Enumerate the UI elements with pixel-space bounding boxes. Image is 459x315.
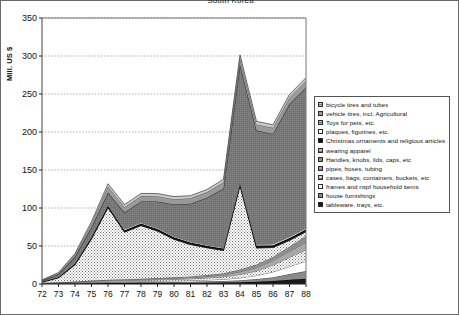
x-tick-label: 84 [235,289,245,299]
x-tick-label: 76 [103,289,113,299]
legend-item-label: plaques, figurines, etc. [326,127,389,136]
legend-item[interactable]: Toys for pets, etc. [318,118,446,127]
x-axis-ticks: 7273747576777879808182838485868788 [37,284,311,299]
legend-item[interactable]: vehicle tires, incl. Agricultural [318,109,446,118]
legend-swatch-icon [318,138,323,143]
legend-item-label: frames and nspf household items [326,182,419,191]
x-tick-label: 79 [153,289,163,299]
x-tick-label: 86 [268,289,278,299]
x-tick-label: 85 [252,289,262,299]
x-tick-label: 82 [202,289,212,299]
y-tick-label: 0 [32,279,37,289]
y-tick-label: 200 [22,127,37,137]
legend-swatch-icon [318,120,323,125]
legend-swatch-icon [318,202,323,207]
legend-item-label: vehicle tires, incl. Agricultural [326,109,407,118]
legend-swatch-icon [318,175,323,180]
legend-item[interactable]: Christmas ornaments and religious articl… [318,136,446,145]
x-tick-label: 73 [54,289,64,299]
x-tick-label: 80 [169,289,179,299]
chart-frame: South Korea MIll. US $ [0,0,459,315]
legend-item-label: Handles, knobs, lids, caps, etc [326,155,411,164]
chart-legend[interactable]: bicycle tires and tubesvehicle tires, in… [314,96,450,213]
y-tick-label: 300 [22,51,37,61]
legend-item-label: Toys for pets, etc. [326,118,375,127]
x-tick-label: 81 [186,289,196,299]
legend-swatch-icon [318,148,323,153]
y-tick-label: 350 [22,13,37,23]
y-tick-label: 250 [22,89,37,99]
legend-item-label: tableware, trays, etc. [326,200,384,209]
stacked-areas [42,55,306,284]
y-tick-label: 100 [22,203,37,213]
legend-item-label: house furnishings [326,191,375,200]
y-axis-ticks: 050100150200250300350 [22,13,42,289]
legend-item[interactable]: plaques, figurines, etc. [318,127,446,136]
legend-swatch-icon [318,166,323,171]
legend-item-label: bicycle tires and tubes [326,100,388,109]
legend-item[interactable]: cases, bags, containers, buckets, etc [318,173,446,182]
legend-swatch-icon [318,184,323,189]
legend-swatch-icon [318,102,323,107]
x-tick-label: 83 [219,289,229,299]
legend-item[interactable]: Handles, knobs, lids, caps, etc [318,155,446,164]
x-tick-label: 75 [87,289,97,299]
x-tick-label: 88 [301,289,311,299]
legend-item-label: wearing apparel [326,146,371,155]
y-tick-label: 50 [27,241,37,251]
x-tick-label: 74 [70,289,80,299]
y-tick-label: 150 [22,165,37,175]
legend-swatch-icon [318,157,323,162]
x-tick-label: 87 [285,289,295,299]
legend-item[interactable]: wearing apparel [318,145,446,154]
legend-item-label: pipes, hoses, tubing [326,164,382,173]
legend-item-label: Christmas ornaments and religious articl… [326,136,445,145]
legend-item[interactable]: bicycle tires and tubes [318,100,446,109]
legend-item-label: cases, bags, containers, buckets, etc [326,173,429,182]
legend-swatch-icon [318,111,323,116]
x-tick-label: 72 [37,289,47,299]
legend-swatch-icon [318,129,323,134]
legend-swatch-icon [318,193,323,198]
legend-item[interactable]: pipes, hoses, tubing [318,164,446,173]
legend-item[interactable]: tableware, trays, etc. [318,200,446,209]
legend-item[interactable]: house furnishings [318,191,446,200]
legend-item[interactable]: frames and nspf household items [318,182,446,191]
x-tick-label: 78 [136,289,146,299]
x-tick-label: 77 [120,289,130,299]
